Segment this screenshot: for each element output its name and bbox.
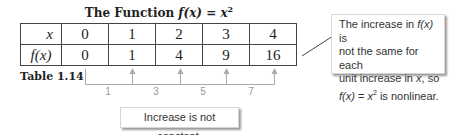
leader-line — [302, 36, 333, 56]
difference-label: 1 — [98, 86, 118, 97]
arrow-up-icons — [130, 68, 278, 74]
difference-label: 3 — [146, 86, 166, 97]
callout-not-constant: Increase is not constant. — [120, 107, 239, 128]
difference-label: 5 — [193, 86, 213, 97]
callout-nonlinear: The increase in f(x) is not the same for… — [331, 14, 445, 74]
difference-label: 7 — [241, 86, 261, 97]
